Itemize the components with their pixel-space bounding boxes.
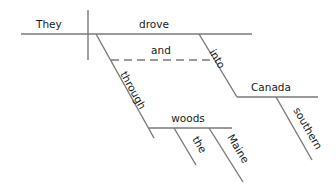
object-woods-word: woods — [171, 112, 205, 124]
object-canada-word: Canada — [251, 81, 291, 93]
prep-through-word: through — [118, 69, 149, 111]
modifier-the-line — [174, 128, 196, 165]
prep-into-word: into — [207, 47, 228, 70]
subject-word: They — [35, 18, 62, 30]
conjunction-word: and — [151, 44, 171, 56]
sentence-diagram: They drove through into and Canada south… — [0, 0, 336, 196]
verb-word: drove — [139, 18, 169, 30]
modifier-the-word: the — [190, 134, 209, 155]
modifier-southern-word: southern — [291, 105, 325, 151]
